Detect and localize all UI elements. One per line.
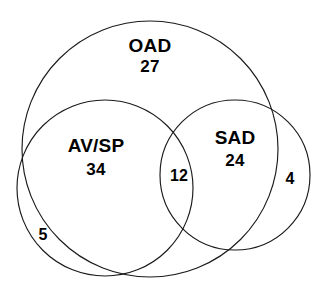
set-label-avsp: AV/SP: [68, 135, 125, 156]
region-count-sad-outside-oad: 4: [285, 170, 294, 187]
venn-diagram-canvas: OAD 27 AV/SP 34 SAD 24 12 4 5: [0, 0, 319, 297]
circle-avsp: [17, 100, 193, 276]
set-count-sad: 24: [225, 151, 245, 170]
venn-diagram-figure: OAD 27 AV/SP 34 SAD 24 12 4 5: [0, 0, 319, 297]
region-count-avsp-outside-oad: 5: [38, 226, 47, 243]
region-count-avsp-sad-overlap: 12: [170, 167, 188, 184]
set-count-avsp: 34: [86, 160, 106, 179]
set-label-sad: SAD: [215, 127, 256, 148]
set-label-oad: OAD: [129, 35, 172, 56]
set-count-oad: 27: [140, 57, 159, 76]
